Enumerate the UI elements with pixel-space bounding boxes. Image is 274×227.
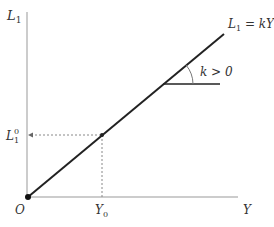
point-y0 bbox=[100, 133, 104, 137]
equation-label: L1 = kY bbox=[227, 17, 274, 33]
function-line bbox=[28, 34, 224, 197]
y-axis-label: L1 bbox=[6, 8, 21, 25]
origin-point bbox=[25, 194, 31, 200]
linear-function-diagram: L1 L1 = kY k > 0 L10 O Y0 Y bbox=[0, 0, 274, 227]
arrow-left-icon bbox=[28, 133, 33, 138]
x-axis-label: Y bbox=[243, 203, 252, 217]
origin-label: O bbox=[15, 203, 25, 217]
l1-0-label: L10 bbox=[5, 127, 19, 145]
slope-angle-arc bbox=[186, 65, 193, 84]
slope-annotation: k > 0 bbox=[200, 65, 233, 79]
y0-label: Y0 bbox=[95, 203, 108, 219]
